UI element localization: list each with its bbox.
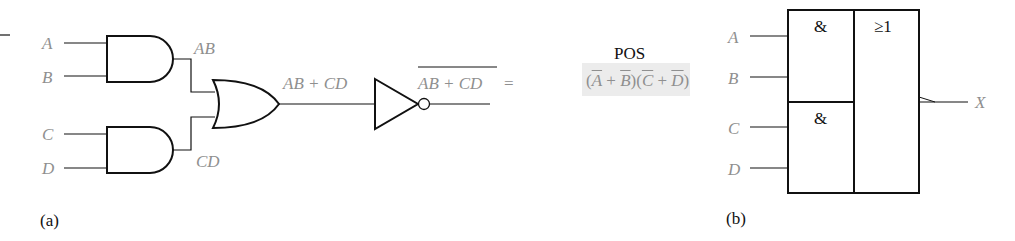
or-output-label: AB + CD	[283, 75, 347, 92]
output-label-x: X	[975, 94, 985, 111]
pos-expression: (A + B)(C + D)	[586, 72, 689, 89]
pos-title: POS	[614, 45, 645, 62]
input-label-c: C	[42, 126, 53, 143]
and-output-label-cd: CD	[196, 153, 220, 170]
and-symbol-top: &	[814, 18, 827, 35]
or-symbol: ≥1	[874, 18, 892, 35]
b-input-label-a: A	[728, 29, 738, 46]
input-label-d: D	[42, 160, 54, 177]
b-input-label-d: D	[728, 161, 740, 178]
and-gate-1	[107, 36, 173, 82]
inverter-bubble	[419, 99, 430, 110]
input-label-a: A	[42, 35, 52, 52]
input-label-b: B	[42, 69, 52, 86]
and-symbol-bottom: &	[814, 110, 827, 127]
b-input-label-b: B	[728, 70, 738, 87]
and-output-label-ab: AB	[194, 40, 215, 57]
or-gate	[213, 80, 279, 128]
and-gate-2	[107, 127, 173, 173]
inverter-gate	[375, 79, 418, 129]
b-input-label-c: C	[728, 120, 739, 137]
caption-a: (a)	[40, 212, 59, 229]
caption-b: (b)	[726, 210, 746, 227]
equals-sign: =	[504, 75, 514, 92]
inverter-output-label: AB + CD	[418, 75, 482, 92]
schematic-lines	[0, 0, 1015, 241]
